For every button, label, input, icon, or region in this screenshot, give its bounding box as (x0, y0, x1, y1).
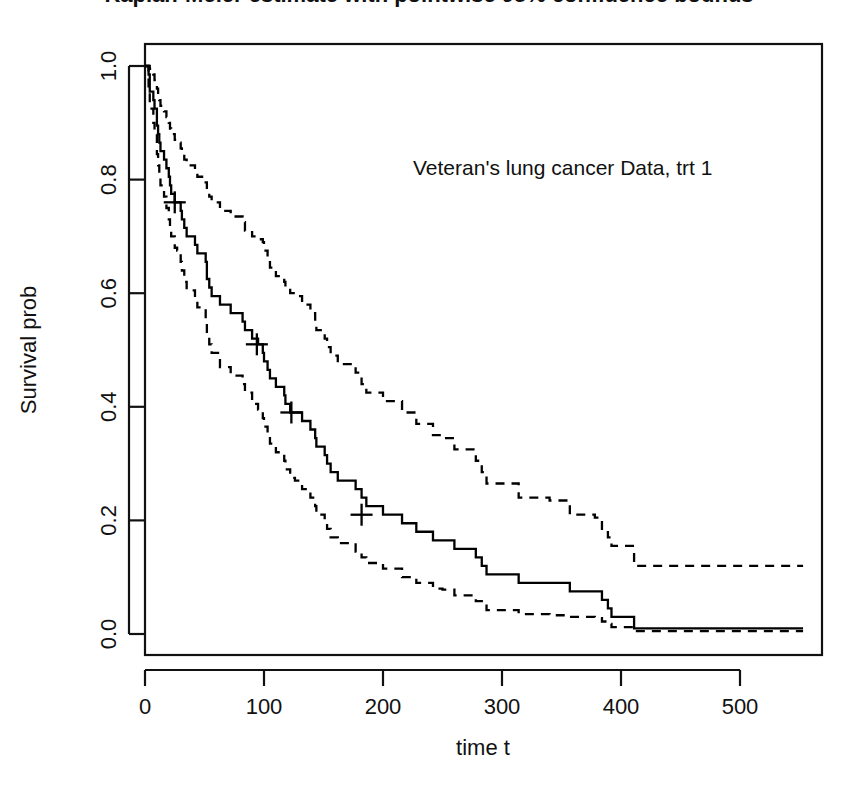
y-tick-label: 0.2 (96, 505, 121, 536)
plot-frame (145, 44, 822, 655)
y-tick-label: 0.4 (96, 392, 121, 423)
x-axis: 0100200300400500 (139, 670, 758, 719)
x-tick-label: 300 (484, 694, 521, 719)
lower-confidence-bound-curve (145, 66, 803, 631)
y-tick-label: 0.0 (96, 619, 121, 650)
survival-estimate-curve (145, 66, 803, 628)
survival-plot-figure: Kaplan-Meier estimate with pointwise 95%… (0, 0, 858, 790)
y-tick-label: 1.0 (96, 51, 121, 82)
x-tick-label: 100 (246, 694, 283, 719)
y-tick-label: 0.8 (96, 164, 121, 195)
x-tick-label: 500 (722, 694, 759, 719)
y-tick-label: 0.6 (96, 278, 121, 309)
x-tick-label: 200 (365, 694, 402, 719)
x-tick-label: 0 (139, 694, 151, 719)
chart-title: Kaplan-Meier estimate with pointwise 95%… (104, 0, 753, 7)
y-axis-title: Survival prob (16, 286, 41, 414)
plot-annotation: Veteran's lung cancer Data, trt 1 (413, 156, 712, 179)
x-tick-label: 400 (603, 694, 640, 719)
x-axis-title: time t (456, 735, 510, 760)
y-axis: 0.00.20.40.60.81.0 (96, 51, 145, 650)
survival-plot-page: Kaplan-Meier estimate with pointwise 95%… (0, 0, 858, 790)
